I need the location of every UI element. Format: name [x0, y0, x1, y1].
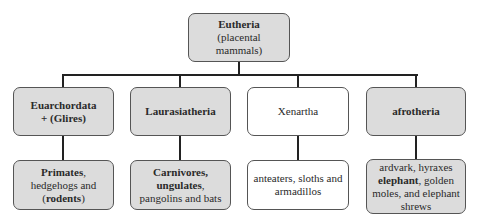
leaf-text: ,: [202, 179, 205, 191]
leaf-line: elephant, golden: [378, 174, 454, 187]
leaf-text: ): [81, 192, 85, 204]
leaf-line: moles, and elephant: [372, 187, 460, 200]
leaf-connector-1: [62, 136, 64, 160]
leaf-line: anteaters, sloths and: [254, 172, 343, 185]
root-node-eutheria: Eutheria (placental mammals): [188, 13, 290, 62]
group-name: Laurasiatheria: [145, 105, 215, 118]
leaf-line: shrews: [401, 200, 432, 213]
group-name: Xenartha: [278, 105, 318, 118]
leaf-line: (rodents): [42, 192, 85, 205]
group-name-line1: Euarchordata: [31, 99, 97, 112]
branch-drop-3: [297, 74, 299, 87]
leaf-bold-carnivores: Carnivores,: [153, 166, 208, 179]
leaf-line: Primates,: [41, 166, 86, 179]
branch-drop-2: [179, 74, 181, 87]
leaf-text: , golden: [418, 174, 453, 186]
leaf-node-euarchordata: Primates, hedgehogs and (rodents): [13, 160, 114, 210]
leaf-connector-4: [415, 136, 417, 160]
group-name-line2: + (Glires): [41, 112, 86, 125]
branch-drop-1: [62, 74, 64, 87]
group-name: afrotheria: [392, 105, 439, 118]
leaf-node-afrotheria: ardvark, hyraxes elephant, golden moles,…: [366, 159, 466, 214]
leaf-bold-rodents: rodents: [46, 192, 81, 204]
group-node-xenartha: Xenartha: [247, 87, 349, 136]
leaf-line: pangolins and bats: [140, 192, 222, 205]
root-subtitle: (placental mammals): [193, 31, 285, 57]
leaf-line: armadillos: [275, 185, 321, 198]
group-node-afrotheria: afrotheria: [366, 87, 466, 136]
leaf-line: ungulates,: [157, 179, 205, 192]
leaf-node-laurasiatheria: Carnivores, ungulates, pangolins and bat…: [130, 160, 231, 210]
leaf-text: ,: [83, 166, 86, 178]
root-title: Eutheria: [218, 18, 260, 31]
leaf-bold-primates: Primates: [41, 166, 83, 178]
branch-drop-4: [415, 74, 417, 87]
group-node-laurasiatheria: Laurasiatheria: [130, 87, 231, 136]
group-node-euarchordata: Euarchordata + (Glires): [13, 87, 114, 136]
leaf-bold-ungulates: ungulates: [157, 179, 202, 191]
leaf-connector-2: [179, 136, 181, 160]
leaf-connector-3: [297, 136, 299, 160]
leaf-line: ardvark, hyraxes: [379, 161, 452, 174]
leaf-node-xenartha: anteaters, sloths and armadillos: [247, 160, 349, 210]
horizontal-branch-bar: [62, 74, 418, 76]
leaf-bold-elephant: elephant: [378, 174, 418, 186]
leaf-line: hedgehogs and: [31, 179, 97, 192]
